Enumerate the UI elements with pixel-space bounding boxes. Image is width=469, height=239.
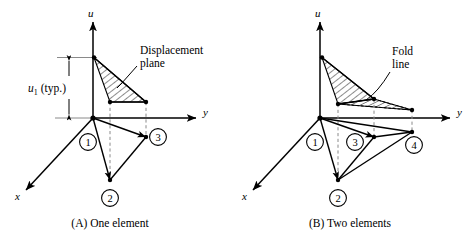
element-edge-1-4-b <box>320 118 412 132</box>
y-axis-label-a: y <box>202 106 208 118</box>
caption-b: (B) Two elements <box>309 217 392 230</box>
node-label-3-a: 3 <box>155 132 160 143</box>
element-edge-1-3-a <box>93 118 146 137</box>
node-label-1-b: 1 <box>312 137 317 148</box>
dimension-label-a: u1(typ.) <box>28 82 66 97</box>
node-label-2-a: 2 <box>107 193 112 204</box>
node-label-4-b: 4 <box>411 140 417 151</box>
y-axis-label-b: y <box>456 106 462 118</box>
element-edge-1-3-b <box>320 118 374 137</box>
element-edge-1-2-b <box>320 118 338 180</box>
u-axis-label-a: u <box>88 7 94 19</box>
dimension-subscript: 1 <box>34 88 38 97</box>
displacement-plane-leader <box>121 66 137 84</box>
origin-dot-b <box>317 115 322 120</box>
x-axis-b <box>253 118 320 190</box>
displacement-plane-label-line2: plane <box>140 57 165 70</box>
caption-a: (A) One element <box>71 217 149 230</box>
vertex-dot-u2-a <box>108 100 112 104</box>
node-dot-3-a <box>144 135 148 139</box>
element-edge-2-3-a <box>110 137 146 180</box>
x-axis-label-b: x <box>241 190 247 202</box>
vertex-dot-u3-b <box>372 97 376 101</box>
node-dot-2-b <box>336 178 340 182</box>
node-label-2-b: 2 <box>335 193 340 204</box>
vertex-dot-u2-b <box>336 102 340 106</box>
node-dot-2-a <box>108 178 112 182</box>
panel-b-group <box>253 22 450 206</box>
x-axis-a <box>26 118 93 190</box>
node-label-3-b: 3 <box>352 137 357 148</box>
dimension-note: (typ.) <box>41 82 66 95</box>
node-label-1-a: 1 <box>85 137 90 148</box>
node-dot-4-b <box>410 130 414 134</box>
node-dot-3-b <box>372 135 376 139</box>
vertex-dot-u4-b <box>410 108 414 112</box>
figure-svg: u y x u1(typ.) Displacement plane 1 2 3 … <box>0 0 469 239</box>
element-edge-1-2-a <box>93 118 110 180</box>
origin-dot-a <box>90 115 95 120</box>
u-axis-label-b: u <box>315 7 321 19</box>
figure-container: u y x u1(typ.) Displacement plane 1 2 3 … <box>0 0 469 239</box>
fold-line-label-line1: Fold <box>392 45 413 57</box>
vertex-dot-u1-a <box>92 55 96 59</box>
vertex-dot-u1-b <box>320 55 324 59</box>
x-axis-label-a: x <box>14 190 20 202</box>
vertex-dot-u3-a <box>144 100 148 104</box>
displacement-plane-label-line1: Displacement <box>140 44 204 57</box>
fold-line-label-line2: line <box>392 58 409 70</box>
